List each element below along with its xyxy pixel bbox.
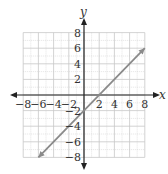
x-tick-label: 4: [111, 98, 118, 111]
y-tick-label: −8: [65, 151, 81, 164]
y-tick-label: −6: [65, 136, 81, 149]
x-tick-label: 8: [141, 98, 148, 111]
y-axis-arrow-up-icon: [81, 18, 87, 25]
x-tick-label: −4: [45, 98, 61, 111]
x-axis-label: x: [159, 88, 166, 102]
y-tick-label: −2: [65, 105, 81, 118]
axes: [10, 18, 160, 170]
x-tick-label: 6: [126, 98, 133, 111]
y-tick-label: 8: [74, 27, 81, 40]
y-tick-label: −4: [65, 120, 81, 133]
x-tick-label: 2: [96, 98, 103, 111]
y-tick-label: 4: [74, 58, 81, 71]
x-tick-label: −6: [30, 98, 46, 111]
x-tick-label: −8: [15, 98, 31, 111]
coordinate-plane-chart: −8−6−4−224688642−2−4−6−8 x y: [0, 0, 168, 174]
y-axis-arrow-down-icon: [81, 163, 87, 170]
y-tick-label: 6: [74, 42, 81, 55]
y-tick-label: 2: [74, 73, 81, 86]
y-axis-label: y: [79, 5, 87, 19]
